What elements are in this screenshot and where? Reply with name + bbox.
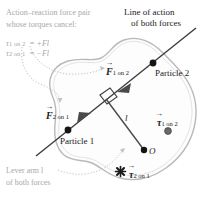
lever-arm-caption-line2: of both forces: [6, 178, 50, 187]
force-1on2-symbol: F: [106, 66, 113, 78]
action-reaction-caption-line1: Action–reaction force pair: [6, 8, 90, 17]
torque-equation-2-subscript: 2 on 1: [9, 50, 25, 57]
torque-equation-2: τ2 on 1 = −Fl: [6, 42, 49, 61]
lever-arm-length-label: l: [125, 113, 128, 124]
torque-1on2-symbol: τ: [157, 117, 161, 129]
torque-2on1-label: τ2 on 1: [129, 164, 150, 183]
torque-2on1-subscript: 2 on 1: [133, 172, 149, 179]
force-2on1-subscript: 2 on 1: [53, 113, 69, 120]
force-1on2-subscript: 1 on 2: [113, 69, 129, 76]
torque-into-page-cross: [116, 167, 126, 177]
force-1on2-label: F1 on 2: [106, 61, 129, 80]
particle-1-label: Particle 1: [60, 136, 94, 147]
line-of-action-caption-line2: of both forces: [131, 18, 181, 29]
physics-torque-diagram: Action–reaction force pair whose torques…: [0, 0, 219, 208]
torque-2on1-symbol: τ: [129, 169, 133, 181]
action-reaction-caption-line2: whose torques cancel:: [6, 20, 77, 29]
leader-line-to-line-of-action: [175, 30, 186, 36]
torque-1on2-label: τ1 on 2: [157, 112, 178, 131]
force-2on1-label: F2 on 1: [46, 105, 69, 124]
line-of-action-caption-line1: Line of action: [124, 7, 174, 18]
origin-label: O: [149, 146, 156, 157]
particle-1-dot: [65, 127, 72, 134]
origin-dot: [141, 147, 147, 153]
lever-arm-caption-line1: Lever arm l: [6, 166, 43, 175]
torque-1on2-subscript: 1 on 2: [161, 120, 177, 127]
torque-equation-2-value: = −Fl: [29, 49, 49, 58]
force-2on1-symbol: F: [46, 110, 53, 122]
rigid-body-outline: [50, 38, 196, 179]
particle-2-label: Particle 2: [155, 68, 189, 79]
particle-2-dot: [150, 60, 157, 67]
